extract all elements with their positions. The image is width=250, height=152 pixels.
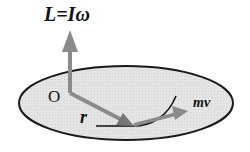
origin-label: O <box>48 88 60 105</box>
angular-momentum-formula: L=Iω <box>44 4 90 24</box>
angular-momentum-diagram: L=Iω O r mv <box>0 0 250 152</box>
diagram-canvas <box>0 0 250 152</box>
radius-label: r <box>80 108 87 126</box>
momentum-label: mv <box>193 96 210 110</box>
